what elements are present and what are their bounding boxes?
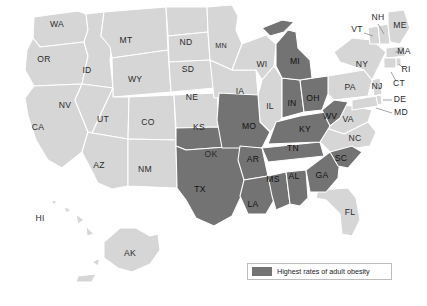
- state-label-ar: AR: [247, 154, 259, 164]
- state-label-ma: MA: [397, 46, 410, 56]
- state-label-ok: OK: [205, 149, 218, 159]
- state-label-wy: WY: [128, 74, 142, 84]
- state-label-nd: ND: [180, 37, 193, 47]
- state-label-az: AZ: [93, 160, 104, 170]
- state-label-nc: NC: [349, 133, 362, 143]
- state-label-wv: WV: [323, 111, 337, 121]
- state-label-ca: CA: [32, 122, 44, 132]
- state-label-mn: MN: [215, 41, 227, 50]
- state-label-ks: KS: [193, 122, 205, 132]
- state-label-fl: FL: [345, 207, 355, 217]
- state-label-hi: HI: [36, 213, 45, 223]
- state-label-me: ME: [393, 20, 406, 30]
- state-label-mo: MO: [242, 121, 256, 131]
- state-label-ky: KY: [299, 124, 311, 134]
- state-label-nh: NH: [372, 12, 385, 22]
- state-label-il: IL: [266, 101, 274, 111]
- state-MD[interactable]: [352, 96, 378, 110]
- state-label-tn: TN: [287, 143, 299, 153]
- state-label-ne: NE: [186, 92, 198, 102]
- state-label-ia: IA: [236, 86, 245, 96]
- state-label-oh: OH: [306, 93, 319, 103]
- state-label-ms: MS: [266, 174, 279, 184]
- state-label-tx: TX: [194, 184, 205, 194]
- state-label-in: IN: [288, 98, 297, 108]
- state-HI[interactable]: [52, 199, 94, 236]
- state-label-mt: MT: [120, 35, 133, 45]
- state-label-wi: WI: [257, 59, 268, 69]
- state-label-nj: NJ: [372, 81, 383, 91]
- state-label-nm: NM: [138, 164, 152, 174]
- state-NM[interactable]: [128, 139, 177, 188]
- state-label-sd: SD: [182, 64, 194, 74]
- legend-swatch-highlight: [252, 267, 272, 276]
- state-CT[interactable]: [384, 58, 396, 68]
- state-label-de: DE: [394, 94, 406, 104]
- state-label-ak: AK: [124, 248, 136, 258]
- state-label-sc: SC: [335, 153, 347, 163]
- state-label-ny: NY: [356, 59, 368, 69]
- map-legend: Highest rates of adult obesity: [247, 263, 392, 280]
- state-label-ri: RI: [402, 64, 411, 74]
- state-label-mi: MI: [290, 56, 300, 66]
- state-label-va: VA: [342, 114, 353, 124]
- state-OR[interactable]: [25, 38, 88, 86]
- state-label-nv: NV: [59, 100, 71, 110]
- state-label-pa: PA: [344, 82, 355, 92]
- state-label-wa: WA: [50, 19, 64, 29]
- state-AZ[interactable]: [82, 132, 128, 189]
- state-label-ut: UT: [97, 114, 109, 124]
- legend-label-text: Highest rates of adult obesity: [277, 268, 370, 275]
- state-label-md: MD: [394, 107, 408, 117]
- state-label-al: AL: [289, 171, 300, 181]
- state-MT[interactable]: [101, 7, 168, 58]
- state-label-la: LA: [248, 199, 259, 209]
- state-label-id: ID: [83, 65, 92, 75]
- state-label-ga: GA: [316, 170, 329, 180]
- state-label-co: CO: [141, 117, 154, 127]
- obesity-choropleth-map: WAORCAIDNVMTWYUTCOAZNMNDSDNEKSOKTXMNIAWI…: [0, 0, 427, 306]
- state-label-ct: CT: [393, 78, 405, 88]
- state-ND[interactable]: [166, 7, 208, 36]
- leader-line-md: [376, 108, 392, 113]
- state-label-or: OR: [37, 54, 50, 64]
- state-label-vt: VT: [351, 24, 363, 34]
- us-states-map-svg: WAORCAIDNVMTWYUTCOAZNMNDSDNEKSOKTXMNIAWI…: [0, 0, 427, 306]
